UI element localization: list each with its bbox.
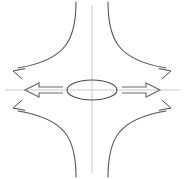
hyperbolic-flow-diagram bbox=[0, 0, 185, 179]
figure-container bbox=[0, 0, 185, 179]
